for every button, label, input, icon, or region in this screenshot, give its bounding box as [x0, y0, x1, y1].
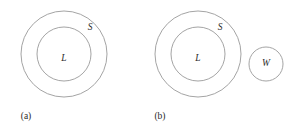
caption-panel-a: (a) — [21, 111, 32, 122]
caption-panel-b: (b) — [154, 111, 165, 122]
label-s-panel-b: S — [218, 22, 223, 32]
figure-container: S L (a) S L W (b) — [0, 0, 292, 137]
set-diagram: S L (a) S L W (b) — [0, 0, 292, 137]
label-w-panel-b: W — [262, 58, 271, 68]
label-s-panel-a: S — [88, 22, 93, 32]
label-l-panel-b: L — [194, 53, 200, 63]
panel-a: S L (a) — [21, 11, 107, 122]
panel-b: S L W (b) — [154, 11, 283, 122]
label-l-panel-a: L — [60, 53, 66, 63]
